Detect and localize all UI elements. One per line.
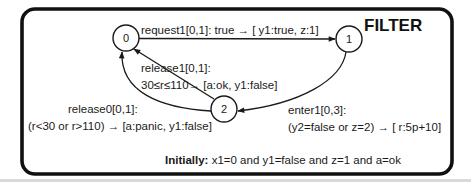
edge-0-to-1-label: request1[0,1]: true → [ y1:true, z:1] <box>141 24 319 36</box>
edge-2-to-0-release1-label-event: release1[0,1]: <box>141 62 211 74</box>
initial-condition: Initially: x1=0 and y1=false and z=1 and… <box>165 154 401 166</box>
state-0: 0 <box>113 25 139 51</box>
edge-2-to-0-release0-label-guard: (r<30 or r>110) → [a:panic, y1:false] <box>28 120 212 132</box>
bottom-strip <box>0 179 471 182</box>
state-1: 1 <box>336 26 362 52</box>
state-0-label: 0 <box>123 32 129 44</box>
edge-2-to-0-release0-label-event: release0[0,1]: <box>68 103 138 115</box>
initial-condition-prefix: Initially: <box>165 154 208 166</box>
edge-2-to-0-release1-label-guard: 30≤r≤110→ [a:ok, y1:false] <box>141 79 277 91</box>
edge-1-to-2-label-guard: (y2=false or z=2) → [ r:5p+10] <box>288 121 441 133</box>
edge-0-to-1 <box>139 39 335 40</box>
state-machine-diagram: FILTER request1[0,1]: true → [ y1:true, … <box>0 0 471 182</box>
edge-2-to-0-release1 <box>134 49 214 99</box>
state-2-label: 2 <box>221 103 227 115</box>
state-1-label: 1 <box>346 33 352 45</box>
edge-1-to-2-label-event: enter1[0,3]: <box>288 104 346 116</box>
initial-condition-text: x1=0 and y1=false and z=1 and a=ok <box>208 154 401 166</box>
diagram-title: FILTER <box>364 16 422 35</box>
state-2: 2 <box>211 96 237 122</box>
